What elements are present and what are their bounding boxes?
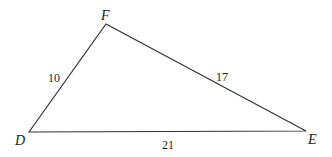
vertex-label-e: E — [307, 132, 317, 147]
side-label-de: 21 — [162, 138, 174, 152]
side-label-fe: 17 — [216, 70, 228, 84]
vertex-label-d: D — [14, 133, 25, 148]
triangle-diagram: D F E 10 17 21 — [0, 0, 332, 157]
side-label-df: 10 — [48, 71, 60, 85]
vertex-label-f: F — [100, 8, 110, 23]
triangle-def — [29, 24, 306, 132]
